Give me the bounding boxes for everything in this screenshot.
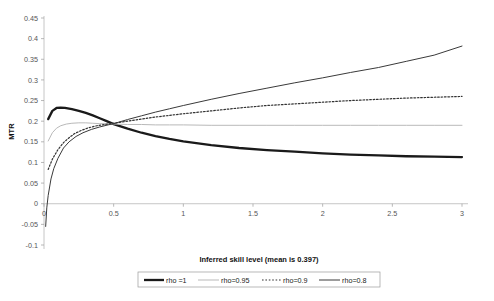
chart-container: -0.1-0.0500.050.10.150.20.250.30.350.40.… xyxy=(0,0,494,301)
x-tick-label: 1.5 xyxy=(248,209,258,218)
y-tick-label: 0.05 xyxy=(24,179,38,188)
y-tick-label: 0.45 xyxy=(24,14,38,23)
y-tick-label: 0.3 xyxy=(28,76,38,85)
legend-label-2: rho=0.9 xyxy=(283,276,308,285)
y-tick-label: -0.1 xyxy=(26,241,38,250)
y-tick-label: 0.25 xyxy=(24,96,38,105)
y-tick-label: 0 xyxy=(34,199,38,208)
series-line-0 xyxy=(48,108,462,158)
line-chart: -0.1-0.0500.050.10.150.20.250.30.350.40.… xyxy=(0,0,494,301)
y-axis-title: MTR xyxy=(7,123,16,140)
series-line-3 xyxy=(46,46,462,226)
y-tick-label: 0.35 xyxy=(24,55,38,64)
y-tick-label: 0.15 xyxy=(24,137,38,146)
legend-label-1: rho=0.95 xyxy=(221,276,250,285)
x-tick-label: 0.5 xyxy=(109,209,119,218)
series-line-2 xyxy=(48,96,462,169)
x-tick-label: 0 xyxy=(42,209,46,218)
x-axis-title: Inferred skill level (mean is 0.397) xyxy=(199,255,319,264)
y-tick-label: 0.2 xyxy=(28,117,38,126)
legend-label-3: rho=0.8 xyxy=(342,276,367,285)
legend-label-0: rho =1 xyxy=(166,276,187,285)
x-tick-label: 3 xyxy=(460,209,464,218)
series-line-1 xyxy=(48,123,462,141)
y-tick-label: 0.1 xyxy=(28,158,38,167)
x-tick-label: 2 xyxy=(321,209,325,218)
y-tick-label: 0.4 xyxy=(28,34,38,43)
y-tick-label: -0.05 xyxy=(22,220,38,229)
x-tick-label: 1 xyxy=(181,209,185,218)
x-tick-label: 2.5 xyxy=(387,209,397,218)
